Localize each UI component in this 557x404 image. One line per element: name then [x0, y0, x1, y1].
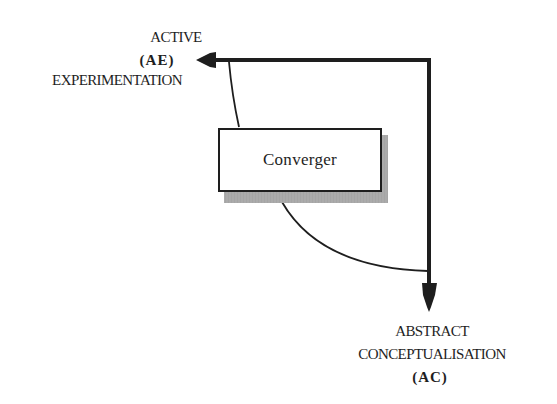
quadrant-label: Converger	[263, 150, 337, 170]
ae-code-text: (AE)	[140, 52, 175, 68]
ac-code-text: (AC)	[412, 369, 448, 385]
abstract-conceptualisation-label-mid: CONCEPTUALISATION	[318, 346, 546, 363]
active-experimentation-label-bottom: EXPERIMENTATION	[24, 72, 210, 89]
quadrant-arc-lower	[282, 202, 428, 271]
abstract-conceptualisation-label-top: ABSTRACT	[377, 323, 487, 340]
quadrant-arc-upper	[229, 62, 239, 127]
active-experimentation-label-top: ACTIVE	[143, 29, 209, 46]
abstract-conceptualisation-code: (AC)	[405, 369, 455, 386]
arrowhead-down-icon	[422, 283, 437, 312]
active-experimentation-code: (AE)	[132, 52, 182, 69]
arrowhead-left-icon	[196, 52, 216, 68]
quadrant-box-converger: Converger	[218, 128, 382, 192]
